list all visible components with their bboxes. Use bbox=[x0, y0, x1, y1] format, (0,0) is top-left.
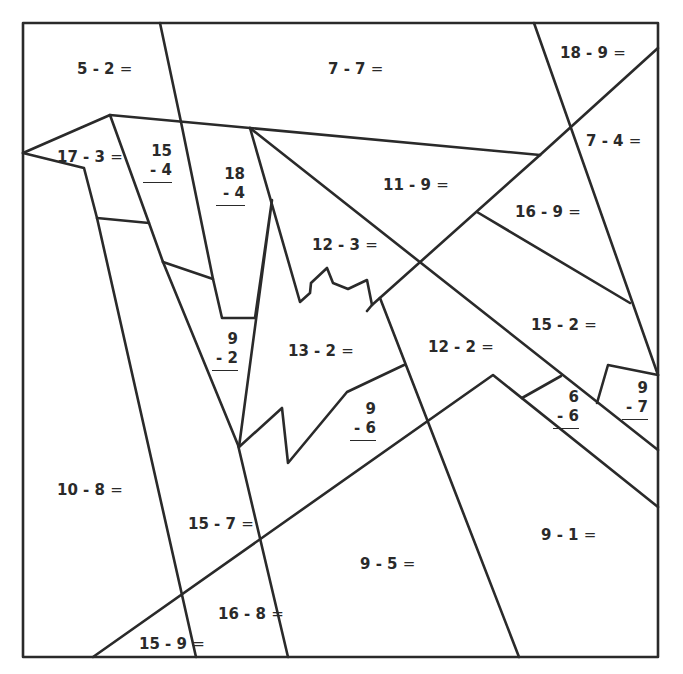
minuend: 9 bbox=[350, 400, 376, 419]
problem-15-minus-9: 15 - 9 = bbox=[139, 637, 205, 652]
color-by-number-worksheet: 5 - 2 = 7 - 7 = 18 - 9 = 17 - 3 = 7 - 4 … bbox=[0, 0, 683, 674]
vertical-problem-6-minus-6: 6 - 6 bbox=[553, 388, 579, 429]
minuend: 9 bbox=[622, 379, 648, 398]
subtrahend: - 7 bbox=[622, 398, 648, 420]
minuend: 9 bbox=[212, 330, 238, 349]
outer-frame bbox=[23, 23, 658, 657]
problem-7-minus-7: 7 - 7 = bbox=[328, 62, 383, 77]
problem-18-minus-9: 18 - 9 = bbox=[560, 46, 626, 61]
minuend: 18 bbox=[216, 165, 245, 184]
minuend: 6 bbox=[553, 388, 579, 407]
vertical-problem-18-minus-4: 18 - 4 bbox=[216, 165, 245, 206]
problem-9-minus-1: 9 - 1 = bbox=[541, 528, 596, 543]
problem-11-minus-9: 11 - 9 = bbox=[383, 178, 449, 193]
minuend: 15 bbox=[143, 142, 172, 161]
problem-12-minus-3: 12 - 3 = bbox=[312, 238, 378, 253]
problem-9-minus-5: 9 - 5 = bbox=[360, 557, 415, 572]
subtrahend: - 4 bbox=[143, 161, 172, 183]
vertical-problem-9-minus-7: 9 - 7 bbox=[622, 379, 648, 420]
problem-5-minus-2: 5 - 2 = bbox=[77, 62, 132, 77]
problem-12-minus-2: 12 - 2 = bbox=[428, 340, 494, 355]
vertical-problem-9-minus-6: 9 - 6 bbox=[350, 400, 376, 441]
problem-16-minus-8: 16 - 8 = bbox=[218, 607, 284, 622]
problem-16-minus-9: 16 - 9 = bbox=[515, 205, 581, 220]
subtrahend: - 6 bbox=[553, 407, 579, 429]
subtrahend: - 4 bbox=[216, 184, 245, 206]
problem-15-minus-2: 15 - 2 = bbox=[531, 318, 597, 333]
subtrahend: - 6 bbox=[350, 419, 376, 441]
vertical-problem-9-minus-2: 9 - 2 bbox=[212, 330, 238, 371]
region-outline-drawing bbox=[0, 0, 683, 674]
problem-7-minus-4: 7 - 4 = bbox=[586, 134, 641, 149]
problem-15-minus-7: 15 - 7 = bbox=[188, 517, 254, 532]
problem-17-minus-3: 17 - 3 = bbox=[57, 150, 123, 165]
vertical-problem-15-minus-4: 15 - 4 bbox=[143, 142, 172, 183]
problem-13-minus-2: 13 - 2 = bbox=[288, 344, 354, 359]
problem-10-minus-8: 10 - 8 = bbox=[57, 483, 123, 498]
subtrahend: - 2 bbox=[212, 349, 238, 371]
